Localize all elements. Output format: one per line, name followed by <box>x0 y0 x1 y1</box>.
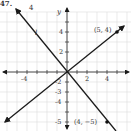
point-5-4 <box>115 30 119 34</box>
top-label: 4 <box>29 4 34 12</box>
x-tick-4: 4 <box>105 75 109 83</box>
point-4-neg5 <box>105 120 109 124</box>
y-tick-4: 4 <box>59 28 63 36</box>
problem-number: 47. <box>0 0 12 8</box>
point-label-4-neg5: (4, −5) <box>74 118 97 126</box>
y-tick-neg3: -3 <box>55 88 61 96</box>
point-label-5-4: (5, 4) <box>94 26 112 34</box>
line-positive-slope <box>5 26 124 122</box>
y-tick-neg4: -4 <box>55 98 61 106</box>
y-tick-neg2: -2 <box>55 78 61 86</box>
x-tick-2: 2 <box>85 75 89 83</box>
coordinate-graph: 47. 4 y l (5, 4) (4, −5) -4 2 4 4 2 -2 -… <box>0 0 131 131</box>
y-tick-neg5: -5 <box>55 118 61 126</box>
line-l-label: l <box>35 29 37 37</box>
x-tick-neg4: -4 <box>21 75 27 83</box>
y-tick-2: 2 <box>59 48 63 56</box>
